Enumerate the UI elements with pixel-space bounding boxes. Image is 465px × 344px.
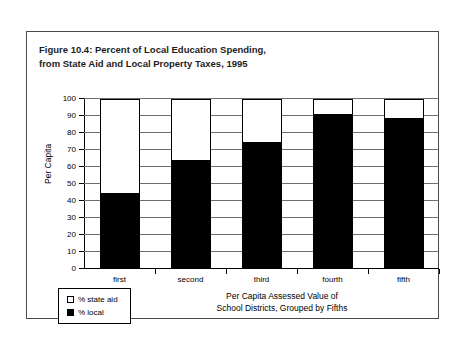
x-axis-title-line-2: School Districts, Grouped by Fifths [167, 302, 397, 314]
stacked-bar[interactable] [242, 99, 282, 269]
bar-segment-local[interactable] [384, 118, 424, 269]
y-axis-title: Per Capita [43, 144, 53, 184]
stacked-bar[interactable] [100, 99, 140, 269]
bar-segment-local[interactable] [313, 114, 353, 269]
chart-legend: % state aid% local [58, 288, 131, 324]
stacked-bar[interactable] [313, 99, 353, 269]
bar-slot: fifth [368, 99, 439, 269]
bar-segment-local[interactable] [242, 142, 282, 270]
legend-label: % state aid [78, 295, 118, 304]
bar-segment-state-aid[interactable] [171, 99, 211, 160]
y-tick-label: 30 [67, 214, 76, 222]
legend-item: % local [67, 306, 118, 319]
y-tick-label: 50 [67, 180, 76, 188]
y-tick-label: 40 [67, 197, 76, 205]
figure-frame: Figure 10.4: Percent of Local Education … [26, 31, 439, 319]
bar-segment-state-aid[interactable] [313, 99, 353, 114]
y-tick-label: 90 [67, 112, 76, 120]
y-tick-label: 10 [67, 248, 76, 256]
x-category-label: second [178, 275, 204, 284]
bar-segment-state-aid[interactable] [242, 99, 282, 142]
figure-title-line-2: from State Aid and Local Property Taxes,… [39, 57, 409, 71]
stacked-bar[interactable] [171, 99, 211, 269]
y-tick-label: 100 [63, 95, 76, 103]
x-category-label: first [113, 275, 126, 284]
figure-title-line-1: Figure 10.4: Percent of Local Education … [39, 43, 409, 57]
bar-segment-local[interactable] [171, 160, 211, 269]
filled-square-icon [67, 309, 74, 316]
x-axis-title-line-1: Per Capita Assessed Value of [167, 290, 397, 302]
bar-segment-state-aid[interactable] [384, 99, 424, 118]
y-tick-label: 70 [67, 146, 76, 154]
x-tick-mark [368, 269, 369, 274]
bar-segment-local[interactable] [100, 193, 140, 270]
legend-label: % local [78, 308, 104, 317]
legend-item: % state aid [67, 293, 118, 306]
y-tick-label: 80 [67, 129, 76, 137]
y-tick-label: 20 [67, 231, 76, 239]
bar-slot: fourth [297, 99, 368, 269]
x-category-label: third [254, 275, 270, 284]
x-axis-title: Per Capita Assessed Value of School Dist… [167, 290, 397, 314]
bar-slot: first [84, 99, 155, 269]
bar-segment-state-aid[interactable] [100, 99, 140, 193]
x-tick-mark [439, 269, 440, 274]
figure-title: Figure 10.4: Percent of Local Education … [39, 43, 409, 71]
x-tick-mark [226, 269, 227, 274]
hollow-square-icon [67, 296, 74, 303]
y-tick-label: 60 [67, 163, 76, 171]
y-tick-label: 0 [72, 265, 76, 273]
x-tick-mark [297, 269, 298, 274]
plot-area: 0102030405060708090100 firstsecondthirdf… [84, 99, 439, 269]
x-category-label: fifth [397, 275, 410, 284]
bar-slot: second [155, 99, 226, 269]
stacked-bar[interactable] [384, 99, 424, 269]
bar-slot: third [226, 99, 297, 269]
x-category-label: fourth [322, 275, 342, 284]
x-tick-mark [155, 269, 156, 274]
